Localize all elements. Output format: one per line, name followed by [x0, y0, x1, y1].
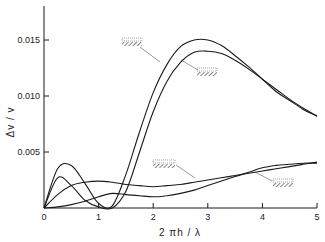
curve-series-1: [44, 39, 317, 208]
x-tick-label: 2: [151, 212, 156, 222]
annotation-symbol-a: [122, 38, 160, 62]
x-tick-label: 4: [260, 212, 265, 222]
line-chart: 0.005 0.010 0.015 0 1 2 3 4 5 2 πh / λ Δ…: [0, 0, 325, 242]
y-tick-label: 0.010: [17, 91, 40, 101]
x-tick-label: 5: [314, 212, 319, 222]
y-tick-label: 0.005: [17, 147, 40, 157]
y-tick-label: 0.015: [17, 35, 40, 45]
x-tick-label: 3: [205, 212, 210, 222]
annotation-symbol-b: [181, 60, 217, 76]
x-tick-label: 1: [96, 212, 101, 222]
x-axis-label: 2 πh / λ: [159, 227, 201, 238]
y-axis-label: Δv / v: [5, 106, 16, 137]
x-ticks: 0 1 2 3 4 5: [41, 203, 319, 222]
annotation-symbol-c: [153, 160, 195, 178]
annotation-symbol-d: [255, 172, 293, 187]
x-tick-label: 0: [41, 212, 46, 222]
